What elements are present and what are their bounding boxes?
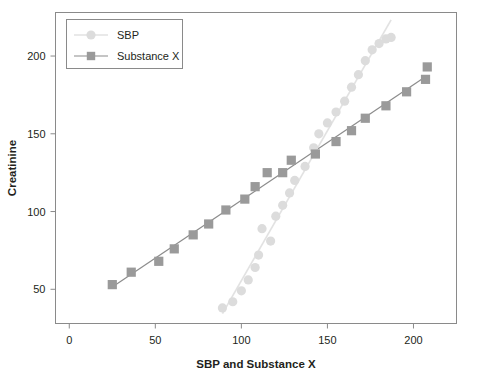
data-point-square [221, 205, 230, 214]
data-point-circle [237, 286, 246, 295]
legend: SBP Substance X [67, 20, 183, 69]
data-point-circle [290, 176, 299, 185]
data-point-square [127, 268, 136, 277]
data-point-square [240, 195, 249, 204]
data-point-square [251, 182, 260, 191]
legend-label-sbp: SBP [117, 29, 139, 41]
data-point-square [361, 114, 370, 123]
y-tick-label: 200 [27, 50, 45, 62]
data-point-circle [271, 212, 280, 221]
data-point-square [311, 149, 320, 158]
y-tick-label: 50 [33, 283, 45, 295]
data-point-square [402, 87, 411, 96]
x-tick-label: 150 [318, 334, 336, 346]
data-point-circle [254, 250, 263, 259]
data-point-square [263, 168, 272, 177]
data-point-circle [218, 303, 227, 312]
data-point-circle [244, 275, 253, 284]
x-tick-label: 100 [232, 334, 250, 346]
data-point-square [331, 137, 340, 146]
data-point-square [189, 230, 198, 239]
data-point-square [423, 62, 432, 71]
square-marker-icon [87, 52, 95, 60]
data-point-circle [285, 188, 294, 197]
data-point-square [204, 219, 213, 228]
data-point-circle [300, 162, 309, 171]
data-point-circle [257, 224, 266, 233]
data-point-square [108, 280, 117, 289]
data-point-circle [354, 70, 363, 79]
chart-figure: 050100150200 50100150200 SBP and Substan… [0, 0, 477, 377]
x-axis-title: SBP and Substance X [196, 358, 316, 370]
data-point-circle [251, 263, 260, 272]
data-point-square [170, 244, 179, 253]
data-point-circle [314, 129, 323, 138]
data-point-circle [278, 201, 287, 210]
circle-marker-icon [86, 30, 95, 39]
data-point-circle [323, 118, 332, 127]
x-tick-label: 50 [149, 334, 161, 346]
legend-label-substance-x: Substance X [117, 50, 180, 62]
x-tick-label: 0 [66, 334, 72, 346]
data-point-square [421, 75, 430, 84]
y-tick-label: 100 [27, 206, 45, 218]
data-point-circle [368, 45, 377, 54]
data-point-square [278, 168, 287, 177]
x-tick-label: 200 [404, 334, 422, 346]
data-point-circle [331, 107, 340, 116]
data-point-circle [228, 297, 237, 306]
data-point-square [347, 126, 356, 135]
y-axis-title: Creatinine [6, 140, 18, 196]
data-point-circle [361, 56, 370, 65]
data-point-square [287, 156, 296, 165]
scatter-plot: 050100150200 50100150200 SBP and Substan… [0, 0, 477, 377]
data-point-circle [347, 83, 356, 92]
data-point-square [381, 101, 390, 110]
data-point-circle [266, 236, 275, 245]
data-point-circle [387, 33, 396, 42]
y-tick-label: 150 [27, 128, 45, 140]
data-point-square [154, 257, 163, 266]
data-point-circle [340, 97, 349, 106]
